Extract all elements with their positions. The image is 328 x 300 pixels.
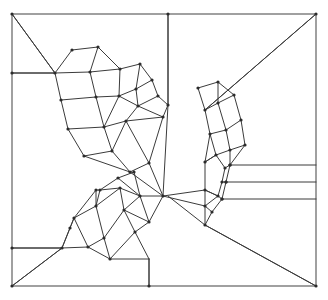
graph-vertex: [243, 143, 246, 146]
graph-vertex: [196, 86, 199, 89]
graph-vertex: [94, 204, 97, 207]
graph-vertex: [216, 194, 219, 197]
graph-vertex: [224, 180, 227, 183]
graph-vertex: [203, 160, 206, 163]
planar-graph-canvas: [0, 0, 328, 300]
graph-vertex: [118, 67, 121, 70]
graph-vertex: [214, 153, 217, 156]
graph-vertex: [94, 95, 97, 98]
graph-vertex: [53, 71, 56, 74]
graph-vertex: [117, 94, 120, 97]
graph-vertex: [161, 194, 164, 197]
graph-vertex: [68, 226, 71, 229]
graph-vertex: [147, 220, 150, 223]
graph-vertex: [224, 128, 227, 131]
graph-vertex: [239, 118, 242, 121]
graph-vertex: [133, 230, 136, 233]
graph-vertex: [314, 284, 317, 287]
graph-vertex: [66, 127, 69, 130]
graph-vertex: [86, 245, 89, 248]
graph-vertex: [150, 78, 153, 81]
graph-vertex: [88, 70, 91, 73]
graph-vertex: [138, 194, 141, 197]
diagram-root: [0, 0, 328, 300]
graph-vertex: [98, 188, 101, 191]
graph-vertex: [128, 170, 131, 173]
graph-vertex: [220, 197, 223, 200]
graph-vertex: [228, 163, 231, 166]
graph-vertex: [228, 148, 231, 151]
graph-vertex: [116, 176, 119, 179]
graph-vertex: [136, 104, 139, 107]
graph-vertex: [102, 236, 105, 239]
graph-vertex: [94, 188, 97, 191]
graph-vertex: [122, 208, 125, 211]
diagram-background: [0, 0, 328, 300]
graph-vertex: [232, 93, 235, 96]
graph-vertex: [203, 108, 206, 111]
graph-vertex: [132, 170, 135, 173]
graph-vertex: [216, 80, 219, 83]
graph-vertex: [10, 246, 13, 249]
graph-vertex: [10, 71, 13, 74]
graph-vertex: [59, 98, 62, 101]
graph-vertex: [203, 188, 206, 191]
graph-vertex: [156, 94, 159, 97]
graph-vertex: [108, 257, 111, 260]
graph-vertex: [124, 119, 127, 122]
graph-vertex: [166, 12, 169, 15]
graph-vertex: [118, 186, 121, 189]
graph-vertex: [203, 204, 206, 207]
graph-vertex: [220, 180, 223, 183]
graph-vertex: [60, 246, 63, 249]
graph-vertex: [70, 48, 73, 51]
graph-vertex: [210, 210, 213, 213]
graph-vertex: [138, 62, 141, 65]
graph-vertex: [314, 12, 317, 15]
graph-vertex: [203, 223, 206, 226]
graph-vertex: [161, 115, 164, 118]
graph-vertex: [147, 161, 150, 164]
graph-vertex: [10, 284, 13, 287]
graph-vertex: [134, 87, 137, 90]
graph-vertex: [10, 12, 13, 15]
graph-vertex: [96, 45, 99, 48]
graph-vertex: [72, 216, 75, 219]
graph-vertex: [216, 101, 219, 104]
graph-vertex: [82, 154, 85, 157]
graph-vertex: [223, 166, 226, 169]
graph-vertex: [147, 284, 150, 287]
graph-vertex: [208, 132, 211, 135]
graph-vertex: [166, 103, 169, 106]
graph-vertex: [110, 149, 113, 152]
graph-vertex: [102, 125, 105, 128]
